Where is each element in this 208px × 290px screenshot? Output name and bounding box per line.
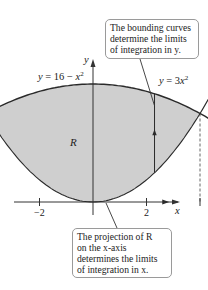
tick-label-minus-2: −2 (34, 207, 45, 218)
callout-top-line-3: of integration in y. (110, 44, 194, 55)
callout-top-line-2: determine the limits (110, 33, 194, 44)
callout-bottom-line-3: determines the limits (77, 253, 167, 264)
callout-bottom-leader-line (106, 203, 117, 228)
callout-bottom-line-1: The projection of R (77, 231, 167, 242)
tick-label-2: 2 (144, 207, 149, 218)
y-axis-arrowhead (91, 59, 96, 67)
callout-bottom: The projection of R on the x-axis determ… (72, 228, 172, 278)
region-label: R (69, 136, 77, 148)
label-upper-curve: y = 16 − x2 (37, 70, 84, 82)
y-axis-label: y (83, 54, 89, 65)
x-axis-arrowhead (172, 200, 180, 205)
callout-bottom-line-2: on the x-axis (77, 242, 167, 253)
projection-arrowhead (162, 200, 169, 205)
callout-bottom-line-4: of integration in x. (77, 264, 167, 275)
callout-top: The bounding curves determine the limits… (105, 19, 199, 59)
callout-top-line-1: The bounding curves (110, 22, 194, 33)
x-axis-label: x (174, 205, 180, 216)
region-R-fill (0, 84, 200, 202)
label-lower-curve: y = 3x2 (158, 74, 189, 86)
